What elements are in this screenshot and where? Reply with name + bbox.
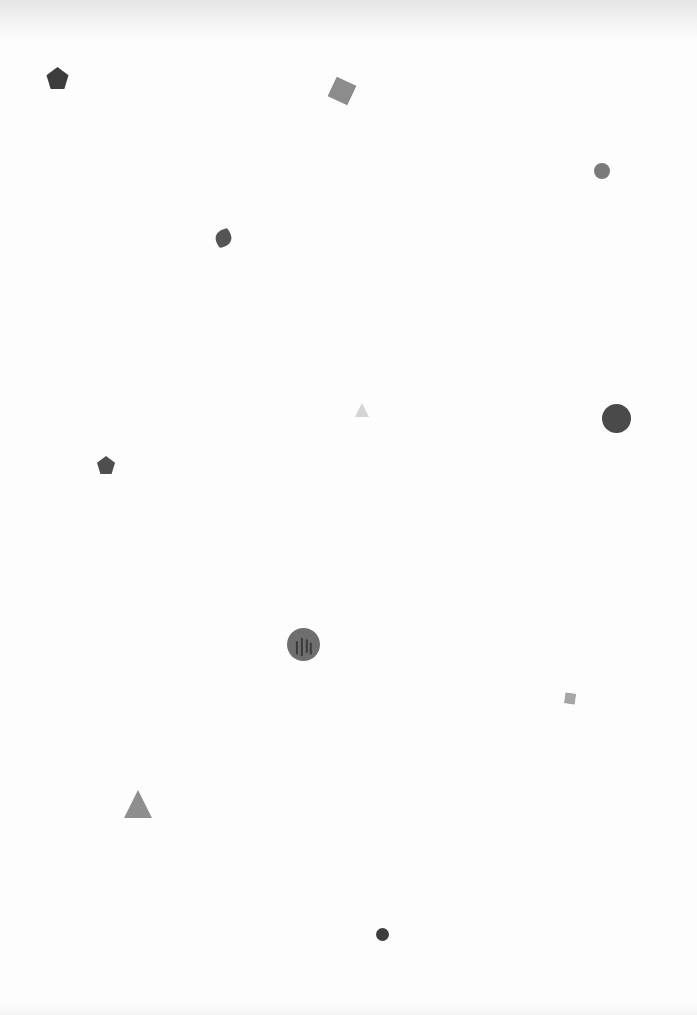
circle-shape-icon [602,404,631,433]
triangle-shape-icon [124,790,152,818]
circle-shape-icon [376,927,389,940]
pentagon-shape-icon [97,456,115,474]
circle-shape-icon [594,163,610,179]
leaf-shape-icon [209,220,239,255]
bottom-scan-edge [0,1003,697,1015]
top-scan-shadow [0,0,697,40]
pentagon-shape-icon [46,67,69,89]
square-shape-icon [327,76,356,105]
square-shape-icon [564,689,576,701]
triangle-shape-icon [355,403,369,417]
circle-shape-icon [287,628,320,661]
